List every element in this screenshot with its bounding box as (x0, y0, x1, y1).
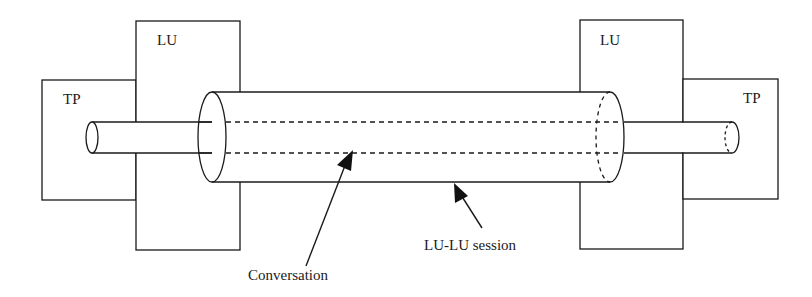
conversation-tube-left (86, 122, 212, 153)
right-lu-label: LU (600, 32, 620, 48)
lu-lu-session-cylinder (212, 92, 610, 182)
session-label: LU-LU session (424, 237, 517, 253)
conversation-label: Conversation (248, 267, 328, 283)
left-tube-end (86, 122, 98, 153)
lu-lu-session-diagram: LU TP LU TP Conversation (0, 0, 812, 297)
conversation-tube-right (624, 122, 739, 153)
session-arrow (454, 183, 482, 228)
right-tp-label: TP (743, 90, 761, 106)
left-tp-label: TP (63, 91, 81, 107)
left-lu-label: LU (157, 32, 177, 48)
